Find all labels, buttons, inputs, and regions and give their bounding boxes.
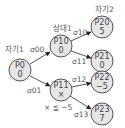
node-p0: P0 0 (9, 59, 31, 81)
edge-p0-p11 (30, 76, 50, 86)
label-sigma00: σ00 (30, 45, 45, 54)
game-tree-diagram: P0 0 P10 0 P11 × P20 5 P21 0 P22 −5 P23 … (0, 0, 125, 128)
node-p11-name: P11 (53, 81, 68, 90)
node-p23-value: 7 (99, 114, 104, 123)
node-p21-name: P21 (94, 52, 109, 61)
label-sigma13: σ13 (74, 110, 89, 119)
node-p23: P23 7 (91, 103, 113, 125)
node-p10-name: P10 (53, 37, 68, 46)
node-p20: P20 5 (91, 16, 113, 38)
node-p23-name: P23 (94, 105, 109, 114)
label-self2: 자기2 (95, 5, 114, 14)
node-p11: P11 × (50, 79, 72, 101)
node-p0-name: P0 (15, 61, 25, 70)
node-p20-value: 5 (99, 27, 104, 36)
edge-p11-p23 (70, 96, 91, 109)
label-sigma10: σ10 (73, 28, 88, 37)
node-p22: P22 −5 (91, 71, 113, 93)
label-condition: × ≦ −5 (44, 103, 73, 112)
node-p11-value: × (58, 90, 65, 99)
label-sigma11: σ11 (72, 57, 87, 66)
node-p0-value: 0 (17, 70, 22, 79)
node-p10-value: 0 (58, 46, 63, 55)
node-p22-name: P22 (94, 73, 109, 82)
node-p10: P10 0 (50, 35, 72, 57)
label-opp1: 상대1 (53, 23, 72, 33)
label-sigma12: σ12 (72, 75, 87, 84)
node-p21-value: 0 (99, 61, 104, 70)
label-self1: 자기1 (5, 45, 24, 54)
node-p20-name: P20 (94, 18, 109, 27)
node-p22-value: −5 (96, 82, 108, 91)
label-sigma01: σ01 (27, 86, 42, 95)
node-p21: P21 0 (91, 50, 113, 72)
